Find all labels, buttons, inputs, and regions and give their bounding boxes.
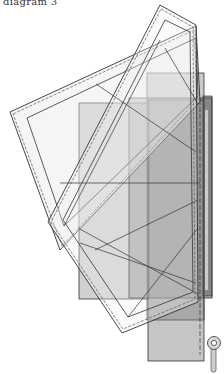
key-ring-icon bbox=[208, 337, 221, 373]
diagram-illustration bbox=[0, 0, 224, 374]
spine-strip-light bbox=[205, 110, 208, 290]
